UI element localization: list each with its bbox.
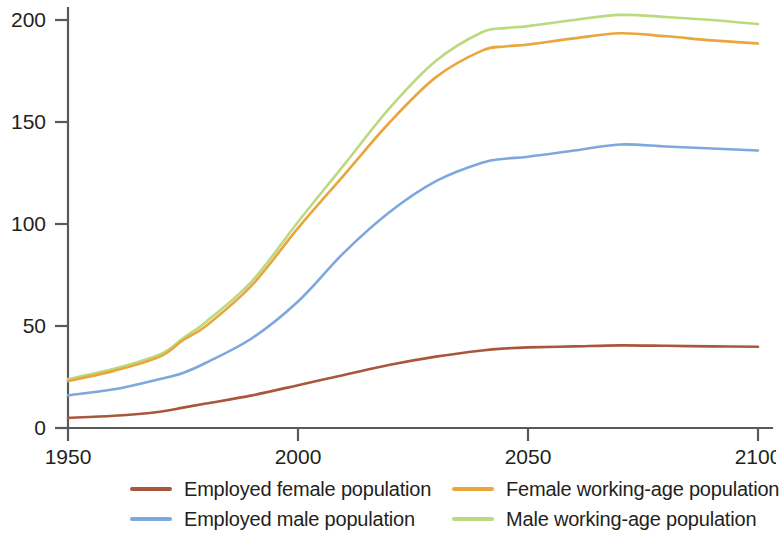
series-line-male-working-age-population [68, 15, 758, 379]
y-tick-label: 200 [11, 8, 46, 31]
legend-item-employed-male-population: Employed male population [130, 508, 452, 531]
chart-legend: Employed female population Female workin… [0, 470, 776, 537]
chart-svg: 050100150200 1950200020502100 [0, 0, 776, 470]
legend-swatch-male-working-age-population [452, 517, 494, 521]
series-line-female-working-age-population [68, 33, 758, 381]
legend-item-male-working-age-population: Male working-age population [452, 508, 783, 531]
x-axis-tick-labels: 1950200020502100 [45, 445, 776, 468]
legend-grid: Employed female population Female workin… [130, 474, 776, 534]
legend-swatch-employed-male-population [130, 517, 172, 521]
chart-series [68, 15, 758, 418]
legend-item-female-working-age-population: Female working-age population [452, 478, 783, 501]
axis-spine [68, 8, 772, 428]
x-tick-label: 1950 [45, 445, 92, 468]
x-tick-label: 2100 [735, 445, 776, 468]
series-line-employed-female-population [68, 345, 758, 417]
legend-swatch-female-working-age-population [452, 487, 494, 491]
chart-axes [55, 8, 772, 441]
legend-label-female-working-age-population: Female working-age population [506, 478, 779, 501]
y-tick-label: 150 [11, 110, 46, 133]
legend-item-employed-female-population: Employed female population [130, 478, 452, 501]
x-tick-label: 2050 [505, 445, 552, 468]
legend-label-male-working-age-population: Male working-age population [506, 508, 756, 531]
y-axis-tick-labels: 050100150200 [11, 8, 46, 439]
series-line-employed-male-population [68, 144, 758, 395]
y-tick-label: 0 [34, 416, 46, 439]
y-tick-label: 50 [23, 314, 46, 337]
legend-label-employed-male-population: Employed male population [184, 508, 415, 531]
plot-area: 050100150200 1950200020502100 [0, 0, 776, 470]
legend-label-employed-female-population: Employed female population [184, 478, 431, 501]
x-tick-label: 2000 [275, 445, 322, 468]
y-tick-label: 100 [11, 212, 46, 235]
legend-swatch-employed-female-population [130, 487, 172, 491]
